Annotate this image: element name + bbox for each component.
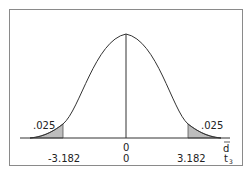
center-dbar-label: 0: [123, 142, 129, 153]
left-tail-label: .025: [33, 120, 55, 131]
right-tail-label: .025: [201, 120, 223, 131]
t-axis-subscript: 3: [229, 158, 233, 165]
center-t-label: 0: [123, 153, 129, 164]
left-critical-label: -3.182: [48, 153, 80, 164]
t-axis-label: t: [224, 153, 228, 164]
right-critical-label: 3.182: [177, 153, 206, 164]
t-distribution-chart: .025 .025 0 0 -3.182 3.182 d t 3: [0, 0, 250, 176]
